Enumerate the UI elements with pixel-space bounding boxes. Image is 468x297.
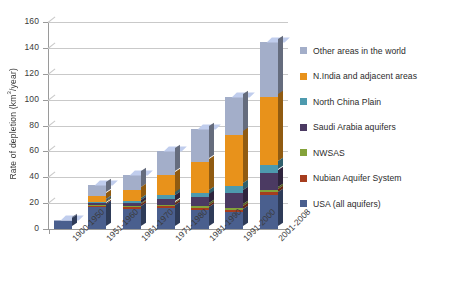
- y-axis-label: 20: [13, 197, 39, 207]
- y-axis-tick: [43, 48, 48, 49]
- x-axis-tick: [152, 230, 153, 234]
- bar-segment[interactable]: [191, 162, 209, 193]
- bar-segment[interactable]: [225, 135, 243, 187]
- bar-segment[interactable]: [225, 97, 243, 135]
- bar-segment[interactable]: [191, 197, 209, 206]
- x-axis-label: 1971-1980: [173, 236, 180, 243]
- bar-segment[interactable]: [123, 175, 141, 191]
- x-axis-label: 2001-2008: [276, 236, 283, 243]
- legend-label: USA (all aquifers): [313, 199, 381, 209]
- bar-segment[interactable]: [157, 175, 175, 196]
- x-axis-tick: [83, 230, 84, 234]
- chart-legend: Other areas in the worldN.India and adja…: [300, 38, 462, 217]
- bar-segment[interactable]: [260, 42, 278, 98]
- y-axis-label: 80: [13, 120, 39, 130]
- y-axis-label: 40: [13, 171, 39, 181]
- legend-item[interactable]: Saudi Arabia aquifers: [300, 115, 462, 141]
- y-axis-label: 120: [13, 68, 39, 78]
- x-axis-label: 1951-1960: [104, 236, 111, 243]
- x-axis-tick: [118, 230, 119, 234]
- legend-swatch: [300, 98, 307, 105]
- bar-segment[interactable]: [260, 173, 278, 190]
- legend-item[interactable]: North China Plain: [300, 89, 462, 115]
- x-axis-tick: [289, 230, 290, 234]
- y-axis-tick: [43, 22, 48, 23]
- y-axis-tick: [43, 126, 48, 127]
- x-axis-tick: [255, 230, 256, 234]
- bar-segment[interactable]: [191, 129, 209, 161]
- bar-segment[interactable]: [123, 190, 141, 201]
- legend-item[interactable]: USA (all aquifers): [300, 191, 462, 217]
- legend-swatch: [300, 124, 307, 131]
- bar-stack[interactable]: [54, 220, 72, 229]
- y-axis-tick: [43, 100, 48, 101]
- legend-label: Other areas in the world: [313, 46, 406, 56]
- legend-item[interactable]: Other areas in the world: [300, 38, 462, 64]
- bar-segment[interactable]: [260, 97, 278, 164]
- x-axis-tick: [220, 230, 221, 234]
- bar-segment[interactable]: [260, 165, 278, 173]
- gridline: [48, 48, 288, 49]
- bar-segment[interactable]: [54, 221, 72, 229]
- bar-segment[interactable]: [157, 151, 175, 174]
- y-axis-label: 140: [13, 42, 39, 52]
- x-axis-label: 1900-1950: [70, 236, 77, 243]
- legend-label: Nubian Aquifer System: [313, 173, 401, 183]
- legend-item[interactable]: NWSAS: [300, 140, 462, 166]
- stacked-bar-chart: Rate of depletion (km3/year) 02040608010…: [0, 0, 468, 297]
- x-axis-label: 1961-1970: [139, 236, 146, 243]
- legend-swatch: [300, 73, 307, 80]
- legend-swatch: [300, 149, 307, 156]
- gridline: [48, 100, 288, 101]
- gridline: [48, 22, 288, 23]
- y-axis-tick: [43, 229, 48, 230]
- y-axis-label: 0: [13, 223, 39, 233]
- gridline: [48, 74, 288, 75]
- y-axis-tick: [43, 74, 48, 75]
- legend-item[interactable]: N.India and adjacent areas: [300, 64, 462, 90]
- legend-label: North China Plain: [313, 97, 381, 107]
- x-axis-label: 1981-1990: [207, 236, 214, 243]
- y-axis-tick: [43, 177, 48, 178]
- bar-segment[interactable]: [225, 193, 243, 207]
- legend-label: NWSAS: [313, 148, 345, 158]
- bar-segment[interactable]: [88, 185, 106, 195]
- legend-item[interactable]: Nubian Aquifer System: [300, 166, 462, 192]
- gridline: [48, 126, 288, 127]
- legend-label: Saudi Arabia aquifers: [313, 122, 396, 132]
- y-axis-label: 60: [13, 145, 39, 155]
- y-axis-tick: [43, 203, 48, 204]
- y-axis-label: 100: [13, 94, 39, 104]
- y-axis-tick: [43, 151, 48, 152]
- x-axis-tick: [49, 230, 50, 234]
- legend-swatch: [300, 175, 307, 182]
- legend-swatch: [300, 47, 307, 54]
- bar-segment[interactable]: [225, 186, 243, 193]
- y-axis-label: 160: [13, 16, 39, 26]
- legend-label: N.India and adjacent areas: [313, 71, 417, 81]
- x-axis-tick: [186, 230, 187, 234]
- plot-area: 020406080100120140160: [48, 22, 288, 229]
- bar-stack[interactable]: [260, 42, 278, 229]
- x-axis-label: 1991-2000: [241, 236, 248, 243]
